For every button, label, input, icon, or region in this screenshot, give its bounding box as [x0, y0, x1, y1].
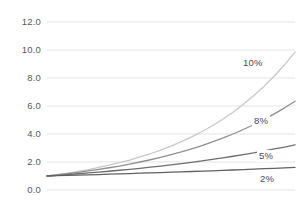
series-label-10pct: 10% [241, 57, 265, 69]
series-label-5pct: 5% [257, 150, 275, 162]
y-axis-tick-12.0: 12.0 [3, 17, 41, 27]
y-axis-tick-2.0: 2.0 [3, 157, 41, 167]
series-label-8pct: 8% [252, 115, 270, 127]
y-axis-tick-0.0: 0.0 [3, 185, 41, 195]
series-label-2pct: 2% [258, 173, 276, 185]
chart-container: 0.02.04.06.08.010.012.0 10%8%5%2% [0, 0, 304, 207]
y-axis-tick-10.0: 10.0 [3, 45, 41, 55]
y-axis-tick-4.0: 4.0 [3, 129, 41, 139]
y-axis-tick-8.0: 8.0 [3, 73, 41, 83]
y-axis-tick-6.0: 6.0 [3, 101, 41, 111]
